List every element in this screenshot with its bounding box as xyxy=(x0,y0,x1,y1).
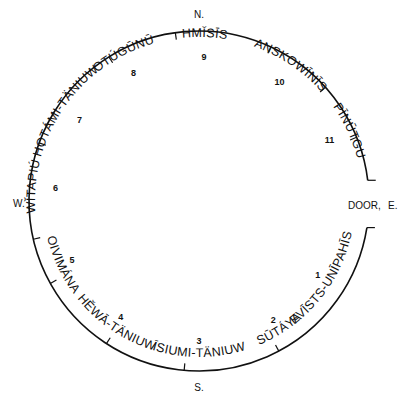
lodge-seating-diagram: EVĪSTS-UNĪPAHĪS1SŪTÁYA2ĪSIUMI-TÄNIUW3HĚW… xyxy=(0,0,410,400)
seat-divider-tick xyxy=(276,345,279,351)
seat-labels: EVĪSTS-UNĪPAHĪS1SŪTÁYA2ĪSIUMI-TÄNIUW3HĚW… xyxy=(23,25,368,360)
seat-divider-tick xyxy=(184,363,185,370)
seat-name-label: WĬTAPIÚ xyxy=(23,158,43,214)
seat-number-label: 8 xyxy=(131,68,136,78)
seat-name-label: HOTÁMI-TÄNIUW xyxy=(30,62,101,158)
seat-name-label: PĪNŪTGU xyxy=(331,100,369,160)
door-label: DOOR, xyxy=(348,200,381,211)
seat-divider-tick xyxy=(175,33,176,40)
east-label: E. xyxy=(388,200,397,211)
seat-name-label: OTÚGŪNŪ xyxy=(90,32,155,74)
seat-number-label: 4 xyxy=(118,312,123,322)
seat-name-label: ANSKOWĪNĪS xyxy=(253,36,330,94)
seat-divider-tick xyxy=(33,238,40,240)
seat-name-label: SŪTÁYA xyxy=(255,309,305,347)
north-label: N. xyxy=(194,9,204,20)
seat-number-label: 6 xyxy=(53,183,58,193)
seat-name-label: OIVIMÁNA xyxy=(44,234,83,296)
seat-number-label: 9 xyxy=(202,52,207,62)
seat-name-label: HĚWĀ-TÄNIUW xyxy=(75,291,158,353)
seat-divider-tick xyxy=(50,280,56,283)
seat-number-label: 5 xyxy=(70,255,75,265)
seat-number-label: 10 xyxy=(275,77,285,87)
west-label: W. xyxy=(13,198,25,209)
seat-number-label: 2 xyxy=(271,315,276,325)
seat-number-label: 7 xyxy=(77,115,82,125)
seat-number-label: 11 xyxy=(325,135,335,145)
seat-name-label: HMĬSĪS xyxy=(181,25,228,42)
south-label: S. xyxy=(194,382,203,393)
seat-number-label: 3 xyxy=(196,336,201,346)
seat-divider-tick xyxy=(106,338,110,344)
seat-number-label: 1 xyxy=(315,270,320,280)
